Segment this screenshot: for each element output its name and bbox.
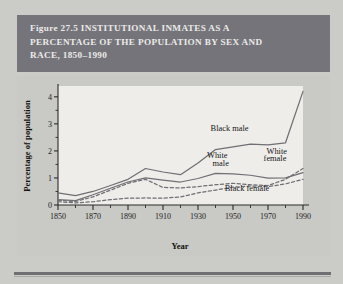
y-axis: 01234 — [48, 84, 58, 210]
x-axis-tick-label: 1870 — [85, 212, 101, 221]
y-axis-tick-label: 2 — [48, 147, 52, 156]
y-axis-tick-label: 0 — [48, 201, 52, 210]
x-axis-tick-label: 1930 — [190, 212, 206, 221]
x-axis-tick-label: 1910 — [155, 212, 171, 221]
x-axis: 18501870189019101930195019701990 — [50, 205, 311, 221]
y-axis-tick-label: 3 — [48, 120, 52, 129]
bottom-divider-highlight — [14, 276, 331, 277]
y-axis-title: Percentage of population — [22, 100, 32, 192]
x-axis-title: Year — [171, 241, 188, 251]
x-axis-tick-label: 1950 — [225, 212, 241, 221]
y-axis-tick-label: 4 — [48, 93, 52, 102]
y-axis-tick-label: 1 — [48, 174, 52, 183]
figure-container: Figure 27.5 INSTITUTIONAL INMATES AS A P… — [0, 0, 343, 284]
chart-panel: 01234 18501870189019101930195019701990 B… — [17, 76, 330, 256]
x-axis-tick-label: 1890 — [120, 212, 136, 221]
series-annotation: Black female — [225, 184, 270, 193]
x-axis-tick-label: 1970 — [260, 212, 276, 221]
bottom-divider — [14, 272, 331, 275]
series-annotation: male — [213, 159, 230, 168]
series-annotation: female — [264, 154, 287, 163]
figure-title-banner: Figure 27.5 INSTITUTIONAL INMATES AS A P… — [17, 15, 330, 72]
series-annotation: Black male — [211, 124, 249, 133]
x-axis-tick-label: 1990 — [295, 212, 311, 221]
line-chart: 01234 18501870189019101930195019701990 B… — [17, 76, 330, 256]
x-axis-tick-label: 1850 — [50, 212, 66, 221]
figure-title-text: Figure 27.5 INSTITUTIONAL INMATES AS A P… — [30, 22, 317, 63]
